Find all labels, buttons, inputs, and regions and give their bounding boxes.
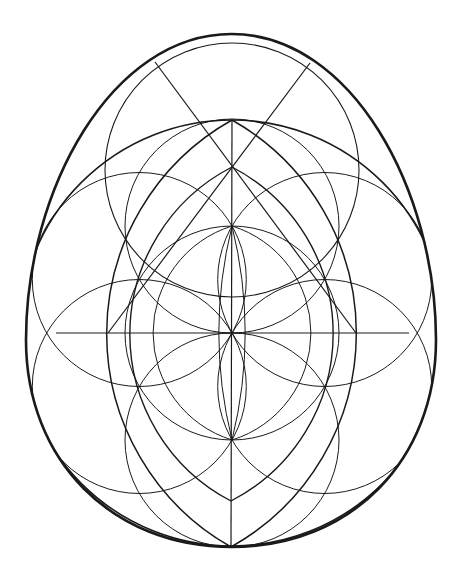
diagonal-left-to-right-line	[155, 62, 356, 333]
inner-geometry	[19, 43, 445, 547]
diagonal-right-to-left-line	[108, 63, 310, 333]
vertical-axis-line	[231, 120, 232, 547]
sacred-geometry-egg-diagram	[0, 0, 464, 578]
egg-diagram-svg	[0, 0, 464, 578]
